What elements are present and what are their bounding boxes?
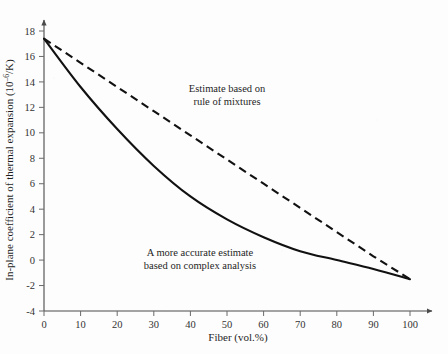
- x-tick-label: 20: [112, 319, 123, 330]
- x-tick-label: 10: [75, 319, 86, 330]
- y-tick-label: -2: [26, 280, 35, 291]
- y-axis-title-tail: /K): [3, 59, 16, 74]
- y-tick-group: -4-2024681012141618: [25, 26, 45, 317]
- y-tick-label: 4: [30, 204, 36, 215]
- annotation-complex-analysis-line1: A more accurate estimate: [147, 247, 254, 258]
- chart-canvas: -4-2024681012141618 01020304050607080901…: [0, 0, 448, 354]
- annotation-layer: Estimate based onrule of mixturesA more …: [144, 83, 266, 271]
- y-axis-title: In-plane coefficient of thermal expansio…: [2, 59, 17, 281]
- y-tick-label: 8: [30, 153, 35, 164]
- x-tick-label: 90: [368, 319, 379, 330]
- y-tick-label: 0: [30, 255, 35, 266]
- y-tick-label: 6: [30, 178, 35, 189]
- y-tick-label: 18: [25, 26, 36, 37]
- annotation-complex-analysis-line2: based on complex analysis: [144, 260, 256, 271]
- x-tick-group: 0102030405060708090100: [41, 311, 418, 330]
- x-tick-label: 80: [332, 319, 343, 330]
- x-tick-label: 40: [185, 319, 196, 330]
- annotation-rule-of-mixtures-line1: Estimate based on: [189, 83, 266, 94]
- thermal-expansion-figure: -4-2024681012141618 01020304050607080901…: [0, 0, 448, 354]
- x-tick-label: 70: [295, 319, 306, 330]
- x-tick-label: 100: [402, 319, 418, 330]
- y-axis-title-lead: In-plane coefficient of thermal expansio…: [3, 81, 16, 281]
- x-axis: 0102030405060708090100: [41, 311, 432, 330]
- y-tick-label: 2: [30, 229, 35, 240]
- x-tick-label: 50: [222, 319, 233, 330]
- x-axis-title: Fiber (vol.%): [208, 331, 268, 344]
- y-axis-title-exponent: –6: [2, 74, 11, 83]
- annotation-rule-of-mixtures-line2: rule of mixtures: [193, 96, 260, 107]
- y-tick-label: 10: [25, 127, 36, 138]
- x-tick-label: 0: [41, 319, 46, 330]
- y-tick-label: 16: [25, 51, 36, 62]
- y-axis: -4-2024681012141618: [25, 20, 45, 317]
- y-tick-label: 12: [25, 102, 36, 113]
- series-rule-of-mixtures: [44, 39, 410, 280]
- x-tick-label: 60: [258, 319, 269, 330]
- y-tick-label: 14: [25, 77, 36, 88]
- y-tick-label: -4: [26, 306, 35, 317]
- x-tick-label: 30: [149, 319, 160, 330]
